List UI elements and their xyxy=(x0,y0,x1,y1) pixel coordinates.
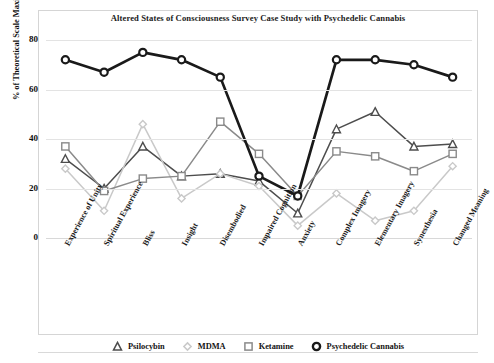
y-tick-label: 0 xyxy=(4,232,38,242)
data-point-ketamine xyxy=(62,143,69,150)
data-point-psychedelic-cannabis xyxy=(217,74,224,81)
data-point-psychedelic-cannabis xyxy=(62,56,69,63)
square-marker-icon xyxy=(243,341,254,352)
chart-container: Altered States of Consciousness Survey C… xyxy=(0,0,494,363)
data-point-psychedelic-cannabis xyxy=(333,56,340,63)
y-axis-label: % of Theoretical Scale Maximum xyxy=(12,0,21,115)
gridline-60 xyxy=(46,90,472,91)
data-point-ketamine xyxy=(410,168,417,175)
data-point-ketamine xyxy=(372,153,379,160)
legend-item-ketamine[interactable]: Ketamine xyxy=(243,341,294,352)
chart-legend: PsilocybinMDMAKetaminePsychedelic Cannab… xyxy=(38,336,478,356)
legend-item-mdma[interactable]: MDMA xyxy=(182,341,226,352)
data-point-mdma xyxy=(139,121,146,128)
data-point-ketamine xyxy=(449,150,456,157)
triangle-marker-icon xyxy=(112,341,123,352)
data-point-psychedelic-cannabis xyxy=(255,173,262,180)
data-point-psychedelic-cannabis xyxy=(410,61,417,68)
data-point-psychedelic-cannabis xyxy=(178,56,185,63)
legend-label: Psychedelic Cannabis xyxy=(327,342,404,351)
legend-divider xyxy=(38,352,478,353)
legend-item-psilocybin[interactable]: Psilocybin xyxy=(112,341,165,352)
y-tick-label: 20 xyxy=(4,183,38,193)
data-point-ketamine xyxy=(333,148,340,155)
data-point-ketamine xyxy=(255,150,262,157)
circle-marker-icon xyxy=(311,341,322,352)
y-tick-label: 60 xyxy=(4,84,38,94)
chart-title: Altered States of Consciousness Survey C… xyxy=(38,13,478,23)
legend-label: MDMA xyxy=(198,342,226,351)
series-line-psilocybin xyxy=(65,112,452,213)
data-point-psilocybin xyxy=(332,125,340,133)
data-point-psychedelic-cannabis xyxy=(372,56,379,63)
y-tick-label: 40 xyxy=(4,133,38,143)
data-point-ketamine xyxy=(178,173,185,180)
plot-area xyxy=(46,40,472,238)
legend-label: Psilocybin xyxy=(128,342,165,351)
legend-label: Ketamine xyxy=(259,342,294,351)
y-tick-label: 80 xyxy=(4,34,38,44)
data-point-psilocybin xyxy=(61,155,69,163)
data-point-psilocybin xyxy=(371,108,379,116)
data-point-psychedelic-cannabis xyxy=(449,74,456,81)
x-axis-labels: Experience of UnitySpiritual ExperienceB… xyxy=(46,241,472,331)
diamond-marker-icon xyxy=(182,341,193,352)
data-point-psilocybin xyxy=(139,142,147,150)
legend-item-psychedelic-cannabis[interactable]: Psychedelic Cannabis xyxy=(311,341,404,352)
data-point-psychedelic-cannabis xyxy=(294,192,301,199)
data-point-psychedelic-cannabis xyxy=(139,49,146,56)
gridline-80 xyxy=(46,40,472,41)
data-point-psychedelic-cannabis xyxy=(100,69,107,76)
gridline-40 xyxy=(46,139,472,140)
data-point-mdma xyxy=(178,195,185,202)
data-point-ketamine xyxy=(217,118,224,125)
